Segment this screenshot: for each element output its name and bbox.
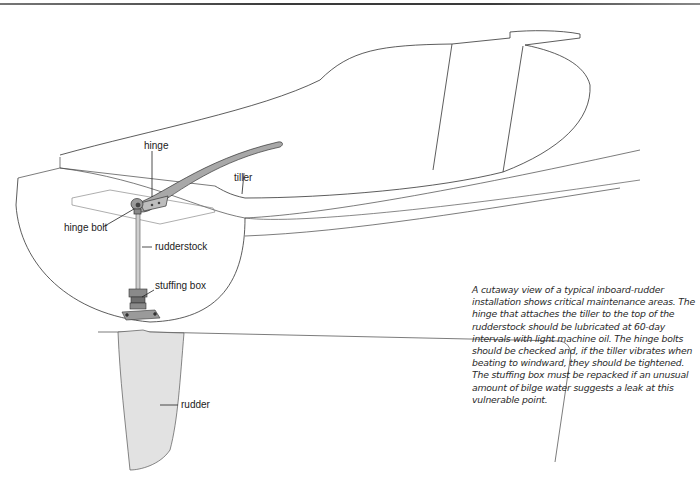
- label-rudder: rudder: [181, 400, 210, 410]
- hinge-part: [131, 199, 143, 215]
- cabin-outline: [60, 31, 590, 198]
- hull-cutaway-curve: [16, 178, 245, 322]
- label-rudderstock: rudderstock: [155, 242, 207, 252]
- label-hinge-bolt: hinge bolt: [64, 223, 107, 233]
- label-hinge: hinge: [144, 141, 168, 151]
- hull-deck-lines: [18, 150, 640, 236]
- tiller-part: [132, 142, 282, 212]
- label-tiller: tiller: [234, 173, 252, 183]
- rudder-cutaway-drawing: [0, 0, 700, 485]
- stuffing-box-part: [122, 289, 160, 320]
- label-stuffing-box: stuffing box: [155, 281, 206, 291]
- rudderstock-shaft: [136, 207, 140, 299]
- figure-caption: A cutaway view of a typical inboard-rudd…: [472, 284, 700, 406]
- rudder-blade: [118, 330, 184, 470]
